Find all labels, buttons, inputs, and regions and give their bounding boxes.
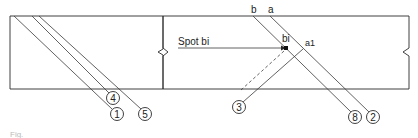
left-panel: 4 1 5 (10, 16, 163, 121)
right-panel: b a Spot bi bi a1 3 8 2 (163, 4, 409, 124)
callout-8: 8 (349, 111, 362, 124)
callout-2: 2 (367, 111, 380, 124)
label-bi: bi (282, 33, 290, 44)
line-1 (14, 16, 112, 109)
weld-diagram: 4 1 5 b a Spot bi bi a1 3 (0, 0, 418, 138)
right-panel-frame (163, 16, 409, 89)
label-a: a (268, 4, 274, 15)
callout-5: 5 (139, 108, 152, 121)
callout-1-label: 1 (114, 109, 120, 120)
callout-4-label: 4 (110, 93, 116, 104)
callout-3-label: 3 (236, 102, 242, 113)
left-panel-frame (10, 16, 163, 89)
line-a (270, 16, 369, 112)
line-5 (39, 16, 141, 109)
callout-4: 4 (107, 92, 120, 105)
callout-8-label: 8 (352, 112, 358, 123)
line-3 (243, 49, 303, 102)
callout-5-label: 5 (142, 109, 148, 120)
callout-3: 3 (233, 101, 246, 114)
spot-bi-label: Spot bi (178, 36, 209, 47)
spot-bi-marker (284, 46, 288, 50)
callout-2-label: 2 (370, 112, 376, 123)
dashed-projection-line (241, 51, 284, 90)
label-b: b (251, 4, 257, 15)
callout-1: 1 (111, 108, 124, 121)
line-b (253, 16, 351, 112)
label-a1: a1 (305, 38, 315, 48)
figure-caption: Fig. (10, 130, 23, 138)
line-4 (32, 16, 109, 93)
